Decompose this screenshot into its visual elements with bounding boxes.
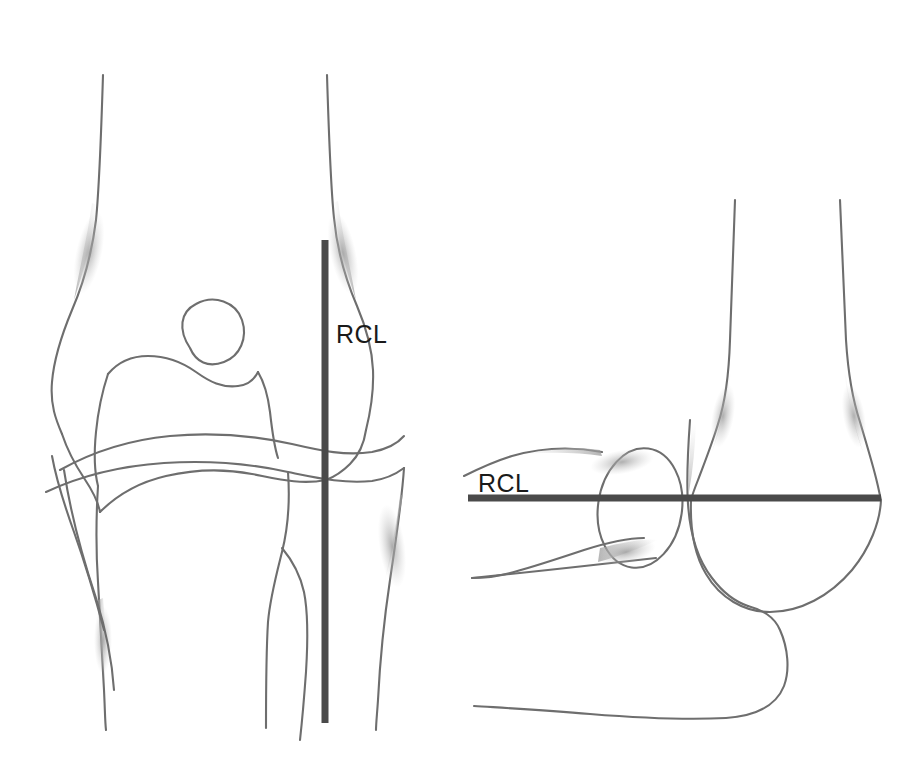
rcl-label-ap: RCL <box>336 320 387 348</box>
ulna-shaft-shading-blob <box>94 606 112 674</box>
elbow-rcl-figure: RCL <box>0 0 903 762</box>
figure-background <box>0 0 903 762</box>
elbow-diagram-svg: RCL <box>0 0 903 762</box>
rcl-label-lateral: RCL <box>478 469 529 497</box>
